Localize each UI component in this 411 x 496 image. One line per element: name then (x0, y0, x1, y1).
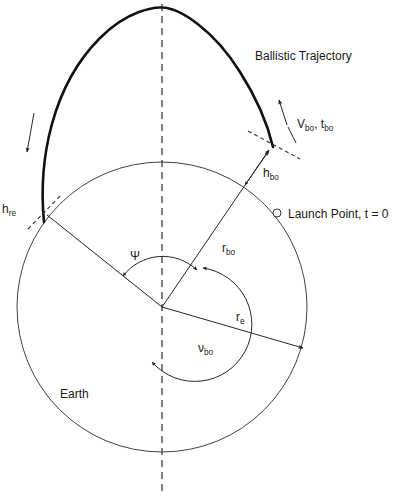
h-re-main: h (2, 202, 9, 216)
descent-direction-arrow (27, 113, 34, 152)
burnout-velocity-time-label: Vbo, tbo (297, 117, 334, 133)
v-bo-main: V (297, 117, 305, 131)
r-e-sub: e (240, 317, 245, 326)
ballistic-trajectory-label: Ballistic Trajectory (255, 49, 352, 63)
h-bo-main: h (263, 166, 270, 180)
r-bo-label: rbo (222, 241, 236, 257)
nu-bo-sub: bo (204, 348, 214, 357)
r-bo-sub: bo (226, 248, 236, 257)
r-e-label: re (236, 310, 245, 326)
burnout-velocity-arrow (279, 100, 287, 125)
v-bo-separator: , (314, 117, 321, 131)
h-bo-label: hbo (263, 166, 279, 182)
h-re-label: hre (2, 202, 16, 218)
launch-point-label: Launch Point, t = 0 (288, 207, 389, 221)
reentry-radius-line (47, 215, 162, 307)
v-bo-sub: bo (305, 124, 315, 133)
nu-bo-angle-arc (152, 268, 252, 381)
launch-point-marker (273, 209, 281, 217)
r-e-measure-line (162, 307, 303, 348)
h-bo-sub: bo (270, 173, 280, 182)
burnout-velocity-leader (288, 127, 296, 143)
reentry-tangent-dashed-line (28, 194, 62, 229)
t-bo-sub: bo (324, 124, 334, 133)
h-re-sub: re (9, 209, 17, 218)
psi-label: Ψ (130, 249, 140, 263)
nu-bo-label: νbo (198, 341, 214, 357)
earth-label: Earth (60, 387, 89, 401)
ballistic-trajectory-diagram: Ballistic Trajectory Vbo, tbo hbo hre rb… (0, 0, 411, 496)
